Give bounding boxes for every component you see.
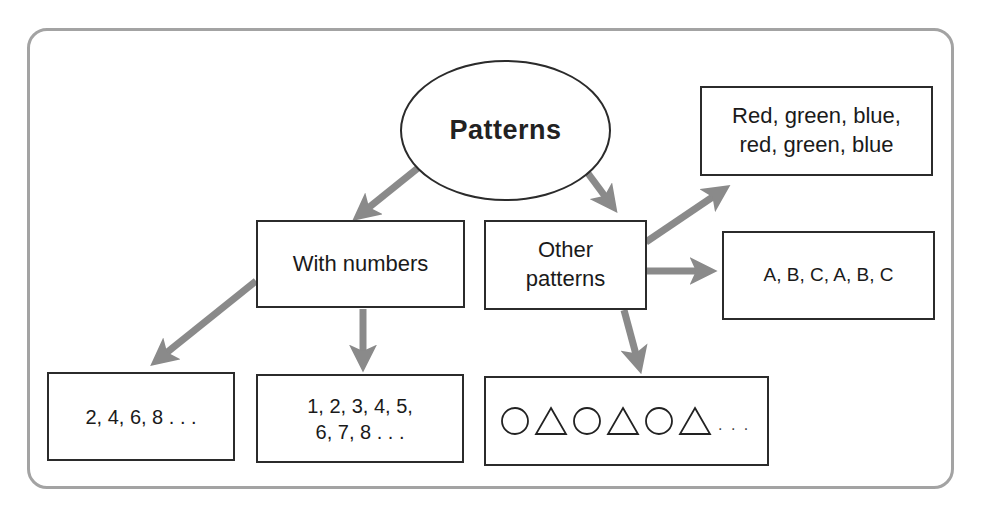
circle-icon [644,406,674,436]
arrow-other-to-shapes [624,310,638,362]
arrow-other-to-colors [646,192,720,242]
node-color-pattern: Red, green, blue, red, green, blue [700,86,933,176]
node-with-numbers: With numbers [256,220,465,308]
node-label-line2: patterns [526,265,606,294]
arrow-root-to-other [587,172,610,203]
node-label-line1: Other [538,236,593,265]
node-label: 2, 4, 6, 8 . . . [85,404,196,430]
node-label: With numbers [293,250,429,279]
node-label-line1: Red, green, blue, [732,102,901,131]
triangle-icon [534,406,568,436]
node-label-line2: red, green, blue [739,131,893,160]
node-shape-pattern: . . . [484,376,769,466]
circle-icon [500,406,530,436]
root-label: Patterns [449,115,561,146]
triangle-icon [678,406,712,436]
circle-icon [572,406,602,436]
shape-sequence: . . . [500,406,750,436]
arrow-root-to-numbers [362,168,418,213]
arrow-numbers-to-even [160,281,256,358]
node-label: A, B, C, A, B, C [764,263,894,288]
node-other-patterns: Other patterns [484,220,647,310]
ellipsis: . . . [718,415,750,436]
node-even-numbers: 2, 4, 6, 8 . . . [47,372,235,461]
node-label-line1: 1, 2, 3, 4, 5, [307,393,413,419]
node-letter-pattern: A, B, C, A, B, C [722,231,935,320]
node-label-line2: 6, 7, 8 . . . [316,419,405,445]
node-counting-numbers: 1, 2, 3, 4, 5, 6, 7, 8 . . . [256,374,464,463]
root-node-patterns: Patterns [400,60,611,201]
triangle-icon [606,406,640,436]
